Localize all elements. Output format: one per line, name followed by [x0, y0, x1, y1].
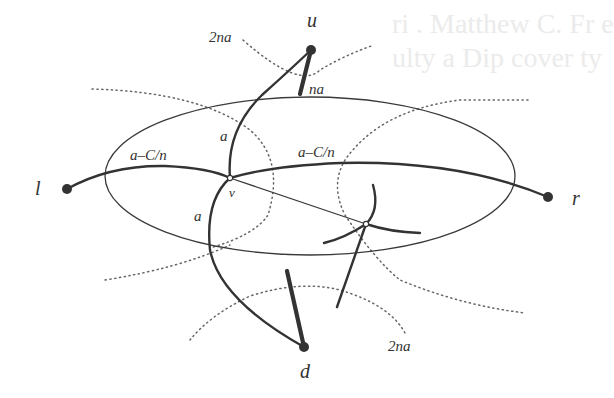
edge-v-r: [230, 163, 548, 197]
label-d: d: [300, 360, 311, 382]
label-r: r: [572, 187, 580, 209]
label-u: u: [307, 9, 317, 31]
vertex-u: [306, 45, 316, 55]
edges: [67, 50, 548, 347]
edge-crossing-arc-right: [366, 224, 420, 233]
region-ellipse: [105, 97, 515, 255]
label-v: v: [229, 185, 235, 200]
crossing-marker: [363, 221, 368, 226]
edge-crossing-arc-upper: [366, 185, 375, 224]
vertex-d: [299, 342, 309, 352]
label-a-minus-c-over-n-left: a–C/n: [130, 147, 167, 163]
vertex-l: [62, 184, 72, 194]
label-l: l: [35, 177, 41, 199]
label-2na-top: 2na: [209, 29, 232, 45]
edge-v-to-crossing: [230, 178, 366, 224]
label-a-upper: a: [220, 128, 228, 144]
vertex-v-marker: [227, 175, 232, 180]
label-2na-bottom: 2na: [388, 338, 411, 354]
vertex-r: [543, 192, 553, 202]
edge-d-bold: [287, 271, 304, 347]
edge-l-v: [67, 166, 230, 189]
edge-v-d: [209, 178, 304, 347]
label-a-lower: a: [194, 208, 202, 224]
label-na: na: [309, 81, 324, 97]
label-a-minus-c-over-n-right: a–C/n: [298, 144, 335, 160]
